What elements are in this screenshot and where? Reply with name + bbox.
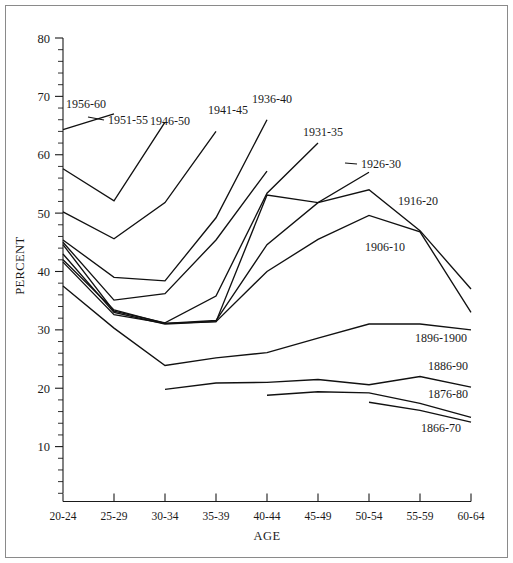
series-line-1931-35 — [63, 143, 318, 323]
series-label-1941-45: 1941-45 — [208, 103, 248, 117]
x-tick-label: 40-44 — [254, 510, 281, 522]
x-tick-label: 35-39 — [203, 510, 230, 522]
y-tick-label: 20 — [38, 382, 51, 396]
series-line-1926-30 — [63, 172, 369, 324]
series-label-1896-1900: 1896-1900 — [415, 331, 467, 345]
y-axis-title: PERCENT — [13, 236, 27, 294]
series-label-1906-10: 1906-10 — [365, 240, 405, 254]
y-tick-label: 10 — [38, 440, 51, 454]
series-label-1916-20: 1916-20 — [398, 194, 438, 208]
series-label-1951-55: 1951-55 — [108, 113, 148, 127]
x-tick-label: 50-54 — [356, 510, 383, 522]
series-label-group: 1956-601951-551946-501941-451936-401931-… — [66, 92, 468, 435]
label-leader-1926-30 — [345, 163, 357, 164]
y-tick-label: 50 — [38, 207, 51, 221]
series-label-1936-40: 1936-40 — [252, 92, 292, 106]
x-tick-label: 30-34 — [152, 510, 179, 522]
series-line-1886-90 — [165, 377, 471, 390]
chart-canvas: 102030405060708020-2425-2930-3435-3940-4… — [0, 0, 513, 563]
series-label-1931-35: 1931-35 — [303, 125, 343, 139]
y-tick-label: 80 — [38, 32, 51, 46]
x-tick-label: 20-24 — [50, 510, 77, 522]
series-line-1946-50 — [63, 131, 216, 238]
series-line-1896-1900 — [63, 286, 471, 365]
x-tick-label: 25-29 — [101, 510, 128, 522]
figure-container: 102030405060708020-2425-2930-3435-3940-4… — [0, 0, 513, 563]
series-label-1926-30: 1926-30 — [361, 157, 401, 171]
series-label-1956-60: 1956-60 — [66, 97, 106, 111]
y-tick-label: 30 — [38, 323, 51, 337]
series-line-1866-70 — [369, 402, 471, 422]
x-tick-label: 45-49 — [305, 510, 332, 522]
series-label-1876-80: 1876-80 — [428, 387, 468, 401]
series-label-1866-70: 1866-70 — [421, 421, 461, 435]
series-group — [63, 114, 471, 422]
series-line-1956-60 — [63, 114, 114, 130]
series-line-1916-20 — [63, 190, 471, 324]
x-tick-label: 60-64 — [458, 510, 485, 522]
y-tick-label: 40 — [38, 265, 51, 279]
series-line-1941-45 — [63, 120, 267, 281]
x-tick-label: 55-59 — [407, 510, 434, 522]
y-tick-label: 70 — [38, 90, 51, 104]
series-label-1886-90: 1886-90 — [428, 359, 468, 373]
x-axis-title: AGE — [254, 529, 281, 543]
y-tick-label: 60 — [38, 148, 51, 162]
series-line-1951-55 — [63, 122, 165, 201]
series-label-1946-50: 1946-50 — [150, 114, 190, 128]
